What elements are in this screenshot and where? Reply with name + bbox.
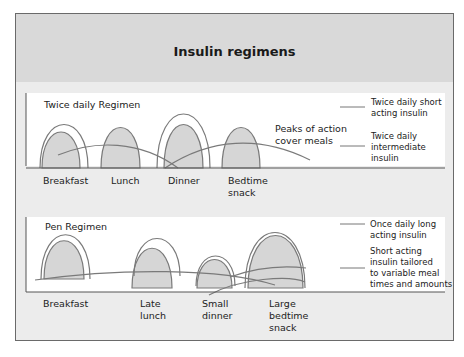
meal-label: Smalldinner <box>202 298 232 322</box>
legend-intermediate: Twice dailyintermediateinsulin <box>371 131 426 164</box>
meal-label: Largebedtimesnack <box>269 298 308 334</box>
meal-label: Breakfast <box>43 298 88 310</box>
meal-label: Dinner <box>168 175 200 187</box>
legend-short-acting-tailored: Short actinginsulin tailoredto variable … <box>370 246 452 290</box>
panel-title-pen: Pen Regimen <box>45 221 107 232</box>
meal-label: Breakfast <box>43 175 88 187</box>
meal-label: Lunch <box>111 175 139 187</box>
panel-title-twice-daily: Twice daily Regimen <box>44 99 140 110</box>
legend-short-acting: Twice daily shortacting insulin <box>371 97 442 119</box>
meal-label: Bedtimesnack <box>228 175 268 199</box>
legend-long-acting: Once daily longacting insulin <box>370 219 436 241</box>
meal-label: Latelunch <box>140 298 166 322</box>
annotation-peaks: Peaks of actioncover meals <box>275 123 347 147</box>
